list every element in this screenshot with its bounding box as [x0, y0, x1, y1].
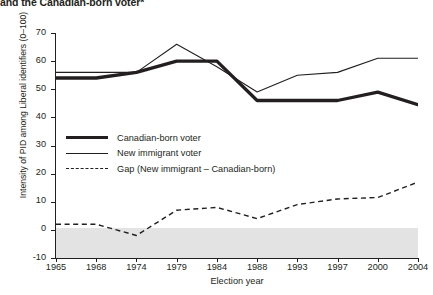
x-axis-tick-mark — [136, 258, 137, 262]
x-axis-tick-label: 1979 — [157, 262, 197, 272]
x-axis-label: Election year — [56, 276, 418, 286]
y-axis-tick-label: 50 — [2, 83, 46, 93]
legend-item-new-immigrant-voter: New immigrant voter — [66, 146, 275, 162]
legend-label: Canadian-born voter — [117, 133, 201, 143]
y-axis-tick-label: 10 — [2, 195, 46, 205]
x-axis-tick-label: 1988 — [237, 262, 277, 272]
legend-item-gap: Gap (New immigrant – Canadian-born) — [66, 161, 275, 177]
legend-item-canadian-born-voter: Canadian-born voter — [66, 130, 275, 146]
x-axis-tick-label: 1984 — [197, 262, 237, 272]
x-axis-tick-label: 2004 — [398, 262, 433, 272]
y-axis-tick-label: 70 — [2, 27, 46, 37]
x-axis-tick-label: 1997 — [318, 262, 358, 272]
y-axis-tick-label: -10 — [2, 252, 46, 262]
legend-label: Gap (New immigrant – Canadian-born) — [117, 164, 275, 174]
x-axis-tick-mark — [217, 258, 218, 262]
x-axis-tick-label: 1965 — [36, 262, 76, 272]
x-axis-tick-label: 1968 — [76, 262, 116, 272]
legend-swatch-thin-solid — [66, 153, 108, 154]
legend-swatch-thick-solid — [66, 136, 108, 139]
x-axis-tick-label: 1993 — [277, 262, 317, 272]
x-axis-tick-mark — [177, 258, 178, 262]
series-canadian-born-voter — [56, 61, 418, 105]
y-axis-tick-label: 40 — [2, 111, 46, 121]
x-axis-line — [55, 258, 418, 259]
x-axis-tick-label: 2000 — [358, 262, 398, 272]
x-axis-tick-label: 1974 — [116, 262, 156, 272]
chart-legend: Canadian-born voter New immigrant voter … — [66, 130, 275, 177]
series-gap — [56, 182, 418, 235]
y-axis-tick-label: 0 — [2, 223, 46, 233]
legend-swatch-dashed — [66, 168, 108, 169]
x-axis-tick-mark — [56, 258, 57, 262]
x-axis-tick-mark — [96, 258, 97, 262]
x-axis-tick-mark — [338, 258, 339, 262]
legend-label: New immigrant voter — [117, 148, 201, 158]
y-axis-tick-label: 60 — [2, 55, 46, 65]
y-axis-tick-label: 30 — [2, 139, 46, 149]
x-axis-tick-mark — [418, 258, 419, 262]
chart-title: and the Canadian-born voter* — [0, 0, 420, 9]
x-axis-tick-mark — [378, 258, 379, 262]
x-axis-tick-mark — [297, 258, 298, 262]
y-axis-tick-label: 20 — [2, 167, 46, 177]
series-new-immigrant-voter — [56, 44, 418, 92]
x-axis-tick-mark — [257, 258, 258, 262]
